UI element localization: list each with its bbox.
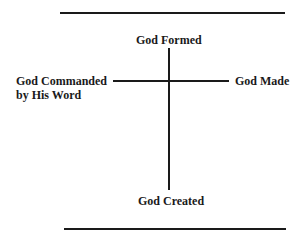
bottom-rule (64, 228, 286, 230)
horizontal-axis (113, 80, 229, 82)
label-god-commanded-line1: God Commanded (16, 74, 107, 88)
label-god-formed: God Formed (136, 33, 202, 47)
label-god-made: God Made (235, 74, 289, 88)
top-rule (60, 12, 285, 14)
label-god-commanded: God Commanded by His Word (16, 74, 107, 102)
vertical-axis (168, 48, 170, 190)
label-god-created: God Created (138, 194, 204, 208)
label-god-commanded-line2: by His Word (16, 88, 107, 102)
